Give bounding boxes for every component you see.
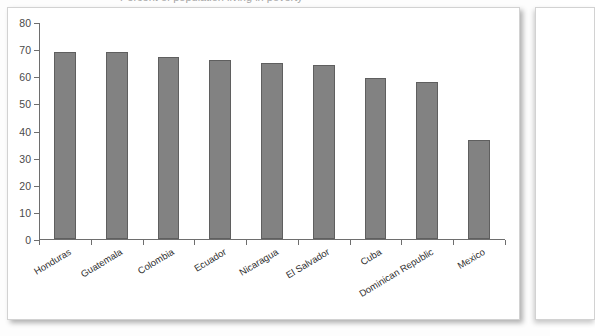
y-axis-tick-label: 50 xyxy=(19,98,31,110)
bar xyxy=(209,60,231,239)
y-axis-tick xyxy=(34,132,39,133)
x-axis-tick xyxy=(298,240,299,245)
y-axis-tick-label: 0 xyxy=(25,234,31,246)
y-axis-tick xyxy=(34,50,39,51)
x-axis-category-label: Honduras xyxy=(32,246,73,277)
y-axis-tick xyxy=(34,77,39,78)
y-axis-tick xyxy=(34,104,39,105)
y-axis-tick-label: 40 xyxy=(19,126,31,138)
bar xyxy=(365,78,387,239)
bar xyxy=(261,63,283,239)
bar-chart: 01020304050607080HondurasGuatemalaColomb… xyxy=(8,8,521,321)
document-page: 01020304050607080HondurasGuatemalaColomb… xyxy=(7,7,520,320)
bar xyxy=(106,52,128,239)
y-axis-tick-label: 30 xyxy=(19,153,31,165)
x-axis-category-label: Ecuador xyxy=(192,246,228,274)
y-axis-tick xyxy=(34,23,39,24)
x-axis-category-label: El Salvador xyxy=(284,246,331,280)
y-axis-tick-label: 70 xyxy=(19,44,31,56)
x-axis-tick xyxy=(143,240,144,245)
x-axis-tick xyxy=(91,240,92,245)
y-axis-tick-label: 10 xyxy=(19,207,31,219)
x-axis-category-label: Mexico xyxy=(455,246,486,271)
adjacent-page-edge xyxy=(535,7,595,320)
bar xyxy=(158,57,180,239)
y-axis-tick-label: 60 xyxy=(19,71,31,83)
y-axis-tick-label: 20 xyxy=(19,180,31,192)
x-axis-line xyxy=(39,239,505,240)
bar xyxy=(468,140,490,239)
x-axis-tick xyxy=(453,240,454,245)
x-axis-tick xyxy=(505,240,506,245)
plot-area: 01020304050607080HondurasGuatemalaColomb… xyxy=(39,23,505,240)
x-axis-tick xyxy=(39,240,40,245)
y-axis-tick-label: 80 xyxy=(19,17,31,29)
chart-title: Percent of population living in poverty xyxy=(120,0,303,3)
y-axis-tick xyxy=(34,213,39,214)
x-axis-category-label: Cuba xyxy=(358,246,383,267)
bar xyxy=(416,82,438,239)
x-axis-tick xyxy=(401,240,402,245)
bar xyxy=(313,65,335,239)
bar xyxy=(54,52,76,239)
x-axis-category-label: Guatemala xyxy=(79,246,125,279)
x-axis-tick xyxy=(246,240,247,245)
y-axis-line xyxy=(39,23,40,240)
cut-off-title-region: Percent of population living in poverty xyxy=(0,0,550,7)
y-axis-tick xyxy=(34,186,39,187)
x-axis-category-label: Nicaragua xyxy=(237,246,280,278)
x-axis-tick xyxy=(194,240,195,245)
x-axis-tick xyxy=(350,240,351,245)
y-axis-tick xyxy=(34,159,39,160)
x-axis-category-label: Colombia xyxy=(136,246,176,276)
